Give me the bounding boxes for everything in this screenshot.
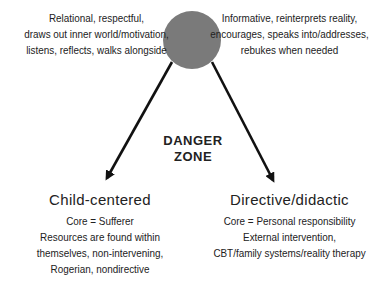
description-line: themselves, non-intervening, xyxy=(14,245,186,261)
description-line: Core = Personal responsibility xyxy=(207,213,373,229)
description-line: External intervention, xyxy=(207,229,373,245)
informative-description: Informative, reinterprets reality, encou… xyxy=(207,10,373,58)
directive-didactic-description: Core = Personal responsibility External … xyxy=(207,213,373,261)
description-line: Rogerian, nondirective xyxy=(14,261,186,277)
child-centered-heading: Child-centered xyxy=(0,191,200,209)
description-line: Relational, respectful, xyxy=(14,10,180,26)
danger-zone-line: ZONE xyxy=(150,149,236,165)
danger-zone-label: DANGER ZONE xyxy=(150,133,236,165)
description-line: CBT/family systems/reality therapy xyxy=(207,245,373,261)
description-line: encourages, speaks into/addresses, xyxy=(207,26,373,42)
description-line: draws out inner world/motivation, xyxy=(14,26,180,42)
description-line: rebukes when needed xyxy=(207,42,373,58)
description-line: Informative, reinterprets reality, xyxy=(207,10,373,26)
description-line: Resources are found within xyxy=(14,229,186,245)
directive-didactic-heading: Directive/didactic xyxy=(193,191,386,209)
description-line: listens, reflects, walks alongside xyxy=(14,42,180,58)
danger-zone-line: DANGER xyxy=(150,133,236,149)
child-centered-description: Core = Sufferer Resources are found with… xyxy=(14,213,186,277)
description-line: Core = Sufferer xyxy=(14,213,186,229)
relational-description: Relational, respectful, draws out inner … xyxy=(14,10,180,58)
